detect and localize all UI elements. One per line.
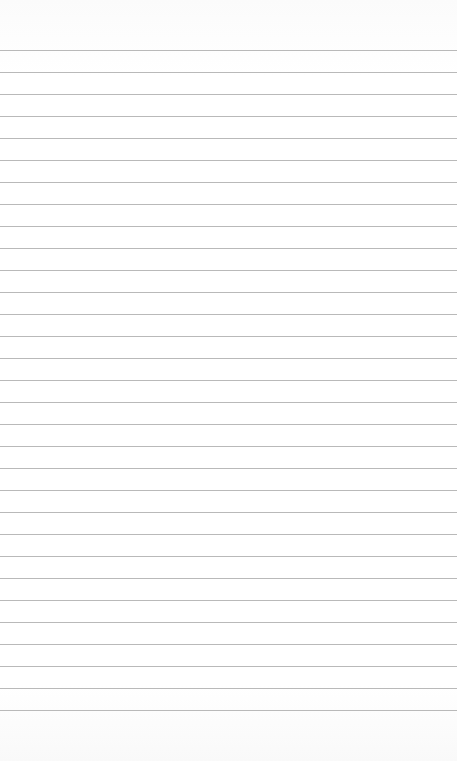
ruled-line [0, 270, 457, 271]
ruled-line [0, 182, 457, 183]
ruled-line [0, 94, 457, 95]
ruled-line [0, 446, 457, 447]
ruled-line [0, 600, 457, 601]
lined-paper-page [0, 0, 457, 761]
ruled-line [0, 512, 457, 513]
ruled-line [0, 468, 457, 469]
ruled-line [0, 292, 457, 293]
ruled-line [0, 424, 457, 425]
ruled-line [0, 380, 457, 381]
ruled-line [0, 138, 457, 139]
ruled-line [0, 204, 457, 205]
ruled-line [0, 644, 457, 645]
ruled-line [0, 358, 457, 359]
ruled-line [0, 116, 457, 117]
ruled-line [0, 534, 457, 535]
ruled-line [0, 72, 457, 73]
ruled-line [0, 226, 457, 227]
ruled-line [0, 490, 457, 491]
ruled-line [0, 578, 457, 579]
ruled-line [0, 556, 457, 557]
ruled-line [0, 160, 457, 161]
ruled-line [0, 248, 457, 249]
ruled-line [0, 666, 457, 667]
ruled-line [0, 402, 457, 403]
ruled-line [0, 622, 457, 623]
ruled-line [0, 688, 457, 689]
ruled-line [0, 314, 457, 315]
ruled-line [0, 336, 457, 337]
ruled-line [0, 710, 457, 711]
ruled-line [0, 50, 457, 51]
